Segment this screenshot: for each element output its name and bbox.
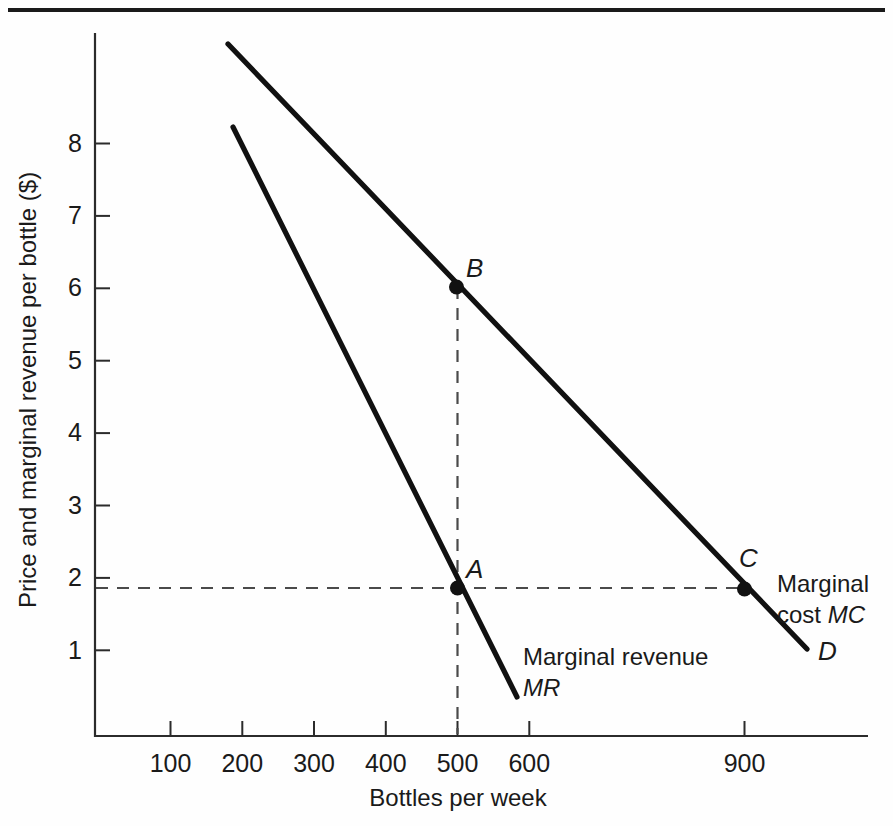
marginal-revenue-annotation: Marginal revenue MR	[523, 643, 708, 701]
marginal-cost-annotation: Marginal cost MC	[777, 570, 869, 628]
y-tick-label-4: 4	[68, 418, 82, 446]
y-tick-label-8: 8	[68, 129, 82, 157]
point-label-b: B	[466, 253, 483, 283]
marginal-cost-line2: cost MC	[777, 601, 866, 628]
x-tick-label-200: 200	[221, 749, 263, 777]
y-axis-ticks	[95, 144, 110, 651]
x-tick-label-500: 500	[437, 749, 479, 777]
x-tick-label-900: 900	[724, 749, 766, 777]
marginal-revenue-abbrev: MR	[523, 674, 560, 701]
y-tick-label-1: 1	[68, 636, 82, 664]
point-marker-a	[450, 581, 465, 596]
marginal-cost-line1: Marginal	[777, 570, 869, 597]
axes-group	[94, 33, 868, 737]
marginal-revenue-curve-line	[233, 127, 517, 697]
y-tick-label-6: 6	[68, 273, 82, 301]
y-axis-tick-labels: 8 7 6 5 4 3 2 1	[68, 129, 82, 664]
point-marker-b	[449, 280, 464, 295]
point-label-a: A	[464, 554, 483, 584]
x-tick-label-400: 400	[365, 749, 407, 777]
x-tick-label-100: 100	[150, 749, 192, 777]
y-tick-label-5: 5	[68, 346, 82, 374]
data-point-markers	[449, 280, 752, 597]
x-tick-label-600: 600	[508, 749, 550, 777]
y-tick-label-7: 7	[68, 201, 82, 229]
chart-svg: 8 7 6 5 4 3 2 1 100 200 300 400 500 600	[0, 0, 893, 826]
marginal-revenue-line1: Marginal revenue	[523, 643, 708, 670]
demand-curve-line	[228, 44, 807, 649]
y-tick-label-3: 3	[68, 491, 82, 519]
y-axis-title: Price and marginal revenue per bottle ($…	[14, 172, 41, 608]
point-label-d: D	[818, 636, 837, 666]
x-axis-tick-labels: 100 200 300 400 500 600 900	[150, 749, 766, 777]
x-tick-label-300: 300	[293, 749, 335, 777]
point-marker-c	[737, 582, 752, 597]
y-tick-label-2: 2	[68, 563, 82, 591]
point-label-c: C	[739, 543, 758, 573]
marginal-cost-abbrev: MC	[828, 601, 866, 628]
figure-container: 8 7 6 5 4 3 2 1 100 200 300 400 500 600	[0, 0, 893, 826]
x-axis-title: Bottles per week	[369, 784, 547, 811]
marginal-cost-text: cost	[777, 601, 828, 628]
